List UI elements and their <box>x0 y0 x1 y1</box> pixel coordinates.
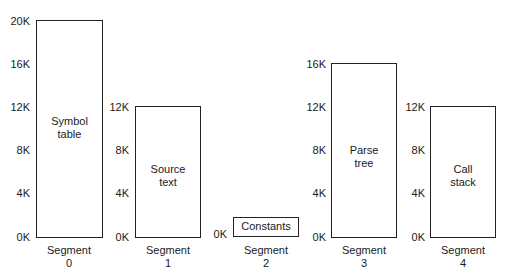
caption-line2: 4 <box>428 257 498 270</box>
caption-line2: 3 <box>329 257 399 270</box>
segment-caption: Segment 4 <box>428 244 498 270</box>
tick-label: 4K <box>103 187 129 199</box>
segment-name: Parse tree <box>331 144 397 170</box>
tick-label: 12K <box>300 101 326 113</box>
segment-caption: Segment 0 <box>34 244 104 270</box>
segment-name-line1: Call <box>430 163 496 176</box>
tick-label: 4K <box>4 187 30 199</box>
segment-name-line2: text <box>135 176 201 189</box>
tick-label: 0K <box>4 231 30 243</box>
tick-label: 8K <box>4 144 30 156</box>
caption-line1: Segment <box>428 244 498 257</box>
segment-name-line1: Parse <box>331 144 397 157</box>
tick-label: 12K <box>103 101 129 113</box>
caption-line2: 2 <box>231 257 301 270</box>
tick-label: 12K <box>4 101 30 113</box>
tick-label: 16K <box>300 58 326 70</box>
segment-name-line2: tree <box>331 157 397 170</box>
tick-label: 4K <box>300 187 326 199</box>
tick-label: 8K <box>300 144 326 156</box>
segment-name-line1: Symbol <box>36 115 103 128</box>
tick-label: 0K <box>300 231 326 243</box>
tick-label: 20K <box>4 15 30 27</box>
segment-name: Constants <box>233 220 299 233</box>
segment-name-line2: stack <box>430 176 496 189</box>
tick-label: 16K <box>4 58 30 70</box>
caption-line1: Segment <box>133 244 203 257</box>
caption-line1: Segment <box>34 244 104 257</box>
segment-caption: Segment 3 <box>329 244 399 270</box>
segment-name: Symbol table <box>36 115 103 141</box>
tick-label: 0K <box>399 231 425 243</box>
tick-label: 4K <box>399 187 425 199</box>
segment-name-line1: Source <box>135 163 201 176</box>
tick-label: 8K <box>399 144 425 156</box>
tick-label: 8K <box>103 144 129 156</box>
segment-caption: Segment 1 <box>133 244 203 270</box>
segment-name: Call stack <box>430 163 496 189</box>
tick-label: 0K <box>103 231 129 243</box>
caption-line1: Segment <box>231 244 301 257</box>
segment-name-line2: table <box>36 128 103 141</box>
caption-line1: Segment <box>329 244 399 257</box>
tick-label: 12K <box>399 101 425 113</box>
caption-line2: 1 <box>133 257 203 270</box>
tick-label: 0K <box>201 228 227 240</box>
segment-caption: Segment 2 <box>231 244 301 270</box>
segment-name: Source text <box>135 163 201 189</box>
caption-line2: 0 <box>34 257 104 270</box>
